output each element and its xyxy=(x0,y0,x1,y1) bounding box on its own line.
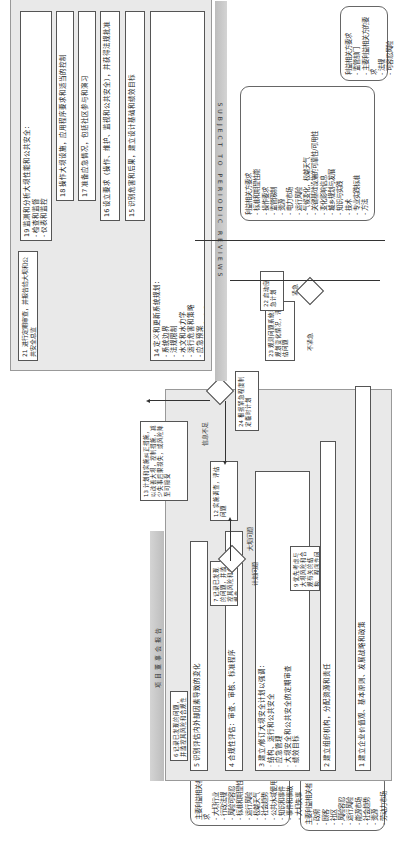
step-14-title: 14 定义和更新系统规划： xyxy=(153,15,162,357)
decision-emergency xyxy=(296,277,324,305)
connector-line xyxy=(225,401,226,461)
step-15: 15 识别危害和后果，建立设计基础和绩效目标 xyxy=(125,11,145,221)
step-9: 9 优先考虑与大坝风险和合规有关的结构、程序性问题 xyxy=(290,546,320,591)
step-14-item: - 应急预案 xyxy=(196,15,205,357)
step-3-title: 3 建立/修订大坝安全计划以强调： xyxy=(258,475,267,767)
step-19-item: - 检查和监督 xyxy=(32,15,41,237)
callout-item: - 主要利益相关方的要求 xyxy=(362,12,379,75)
step-2: 2 建立组织机构，分配资源和责任 xyxy=(320,441,336,771)
band-label: SUBJECT TO PERIODIC REVIEWS xyxy=(218,103,225,280)
step-3-item: · 结构、运行和公共安全 xyxy=(267,475,276,767)
label-dam-problem: 大坝问题 xyxy=(245,527,254,551)
step-24: 24 根据紧急程度制定临时计划 xyxy=(235,371,259,431)
step-5: 5 识别评估内外部因素导致的变化 xyxy=(190,541,208,771)
step-22: 22 启动应急计划 xyxy=(260,271,284,311)
step-14-item: - 法规限制 xyxy=(170,15,179,357)
callout-item: - 运行风险 xyxy=(295,92,303,215)
step-3-item: · 绩效目标 xyxy=(292,475,301,767)
step-6: 6 记录已发现的问题，并监控其风险和合规性 xyxy=(170,691,188,761)
callout-item: - 专业实践标准 xyxy=(353,92,361,215)
step-14-item: - 水文和水力学 xyxy=(179,15,188,357)
callout-item: - 关键基础设施的可靠性/可用性 xyxy=(311,92,319,215)
connector-line xyxy=(150,400,210,401)
band-periodic-reviews: SUBJECT TO PERIODIC REVIEWS xyxy=(215,1,227,381)
callout-item: - 标准和期望性能 xyxy=(253,92,261,215)
step-17: 17 准备应急情况，包括社区参与和演习 xyxy=(78,11,96,201)
step-21: 21 进行定期审查，并报告给大坝和公共安全总监 xyxy=(18,251,38,361)
callout-item: - 政府 xyxy=(313,779,321,825)
step-19: 19 监测和分析大坝性能和公共安全： - 检查和监督 - 仪表和监控 xyxy=(20,11,52,241)
label-info-insufficient: 信息不足 xyxy=(200,422,209,446)
callout-regulator-requirements: 利益相关方要求 - 监管部门 - 主要利益相关方的要求 - 法规 - 可容忍风险 xyxy=(340,6,388,81)
connector-line xyxy=(230,280,380,281)
callout-item: - 资源 xyxy=(371,779,379,825)
callout-item: - 劳动力市场 xyxy=(380,779,388,825)
step-3: 3 建立/修订大坝安全计划以强调： · 结构、运行和公共安全 · 应急管理 · … xyxy=(255,471,310,771)
callout-stakeholders: 主要利益相关者 - 政府 - 顾客 - 社区 - 风险容忍 - 运行风险 - 能… xyxy=(300,773,385,831)
callout-item: - 方法 xyxy=(361,92,369,215)
step-12: 12 实施调查，评估问题 xyxy=(210,461,238,521)
connector-line xyxy=(195,240,385,241)
step-19-title: 19 监测和分析大坝性能和公共安全： xyxy=(23,15,32,237)
band-board-report: 项目董事会报告 xyxy=(150,531,164,781)
callout-item: - 监管限制 xyxy=(270,92,278,215)
step-3-item: · 大坝安全和公共安全的定期审查 xyxy=(284,475,293,767)
step-14-item: - 运行危害和策略 xyxy=(187,15,196,357)
callout-item: - 操作要求 xyxy=(262,92,270,215)
step-14: 14 定义和更新系统规划： - 系统边界 - 法规限制 - 水文和水力学 - 运… xyxy=(150,11,205,361)
callout-item: - 知识与实践 xyxy=(336,92,344,215)
step-16: 16 设立要求（操作、维护、监视和公共安全），并获得法规批准 xyxy=(100,11,120,221)
connector-line xyxy=(230,521,231,561)
label-not-emergency: 不紧急 xyxy=(305,333,314,351)
step-3-item: · 应急管理 xyxy=(275,475,284,767)
band-label: 项目董事会报告 xyxy=(153,625,162,688)
callout-item: - 技术 xyxy=(345,92,353,215)
step-19-item: - 仪表和监控 xyxy=(40,15,49,237)
callout-item: - 变化影响信息 xyxy=(320,92,328,215)
callout-operator-requirements: 利益相关方要求 - 标准和期望性能 - 操作要求 - 监管限制 - 资源 - 电… xyxy=(240,86,375,221)
callout-item: - 运行风险 xyxy=(346,779,354,825)
callout-item: - 能源市场 xyxy=(355,779,363,825)
callout-item: - 可容忍风险 xyxy=(386,12,394,75)
callout-item: - 电力市场 xyxy=(286,92,294,215)
step-1: 1 建立企业价值观、基本原则、发展战略和政策 xyxy=(355,386,371,771)
label-plan-problem: 计划问题 xyxy=(250,562,259,586)
step-18: 18 操作大坝设施，应用程序要求和适当的控制 xyxy=(56,11,74,201)
callout-item: - 顾客 xyxy=(322,779,330,825)
step-14-item: - 系统边界 xyxy=(162,15,171,357)
step-14-item: - 相关维护和改造 xyxy=(204,15,205,357)
callout-item: - 监管部门 xyxy=(353,12,361,75)
step-13: 13 计划和实施纠正措施，以改善大坝，控制措施，减少失事后果损失，或风险降至可接… xyxy=(140,421,188,501)
callout-item: - 社区 xyxy=(330,779,338,825)
